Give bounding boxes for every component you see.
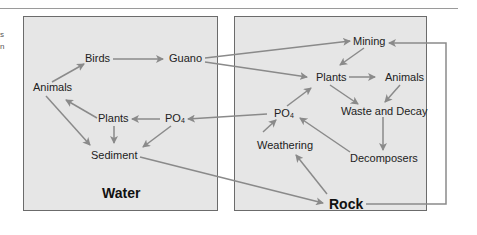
node-po4-rock: PO4 [274, 108, 294, 119]
node-birds: Birds [85, 53, 110, 64]
node-animals-water: Animals [33, 82, 72, 93]
node-sediment: Sediment [91, 150, 137, 161]
node-plants-rock: Plants [316, 72, 347, 83]
rock-box-title: Rock [329, 197, 363, 211]
node-decomposers: Decomposers [350, 153, 418, 164]
node-animals-rock: Animals [385, 72, 424, 83]
node-mining: Mining [353, 36, 385, 47]
node-weathering: Weathering [257, 140, 313, 151]
node-plants-water: Plants [98, 113, 129, 124]
water-box-title: Water [102, 186, 140, 200]
cut-text-fragment: n [0, 42, 4, 51]
top-rule [0, 8, 458, 9]
node-po4-water: PO4 [165, 113, 185, 124]
node-guano: Guano [169, 53, 202, 64]
cut-text-fragment: s [0, 30, 4, 39]
node-waste-and-decay: Waste and Decay [341, 106, 427, 117]
